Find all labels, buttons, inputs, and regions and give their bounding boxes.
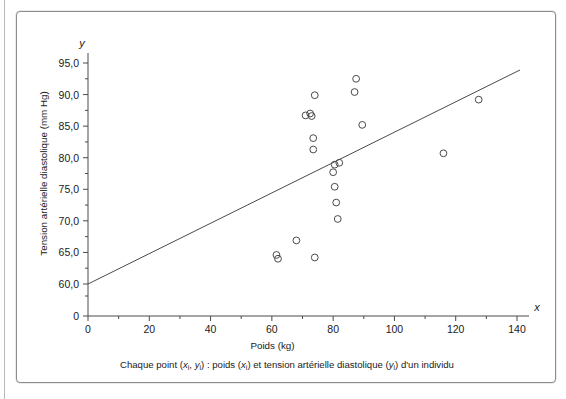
- x-tick-label: 80: [327, 323, 339, 335]
- data-point: [353, 75, 360, 82]
- caption-part: ) et tension artérielle diastolique (: [247, 359, 389, 370]
- data-point: [311, 254, 318, 261]
- data-point: [330, 169, 337, 176]
- y-tick-label: 95,0: [59, 57, 80, 69]
- x-tick-label: 140: [508, 323, 526, 335]
- regression-line: [88, 70, 520, 284]
- x-tick-label: 20: [143, 323, 155, 335]
- y-tick-label: 65,0: [59, 246, 80, 258]
- data-point: [351, 89, 358, 96]
- x-tick-label: 60: [266, 323, 278, 335]
- figure-caption: Chaque point (xi, yi) : poids (xi) et te…: [120, 359, 454, 371]
- y-tick-label: 75,0: [59, 183, 80, 195]
- caption-part: Chaque point (: [120, 359, 184, 370]
- data-point: [311, 92, 318, 99]
- y-tick-label: 60,0: [59, 278, 80, 290]
- data-point: [310, 146, 317, 153]
- x-tick-label: 100: [386, 323, 404, 335]
- y-tick-label: 80,0: [59, 152, 80, 164]
- x-tick-label: 40: [205, 323, 217, 335]
- figure-frame: yx60,065,070,075,080,085,090,095,0002040…: [16, 11, 556, 383]
- page-left-rule: [4, 0, 5, 399]
- y-axis-title: Tension artérielle diastolique (mm Hg): [38, 91, 49, 255]
- x-tick-label: 120: [447, 323, 465, 335]
- x-tick-label: 0: [85, 323, 91, 335]
- data-point: [440, 150, 447, 157]
- caption-part: ) d'un individu: [395, 359, 454, 370]
- data-point: [333, 199, 340, 206]
- y-tick-label: 70,0: [59, 215, 80, 227]
- data-point: [293, 237, 300, 244]
- x-axis-title: Poids (kg): [250, 340, 294, 351]
- scatter-plot: yx60,065,070,075,080,085,090,095,0002040…: [17, 12, 557, 384]
- y-origin-label: 0: [73, 310, 79, 322]
- caption-part: ) : poids (: [201, 359, 242, 370]
- data-point: [331, 183, 338, 190]
- x-axis-letter: x: [533, 301, 540, 313]
- y-tick-label: 90,0: [59, 89, 80, 101]
- y-tick-label: 85,0: [59, 120, 80, 132]
- data-point: [359, 121, 366, 128]
- data-point: [310, 135, 317, 142]
- data-point: [475, 96, 482, 103]
- data-point: [334, 216, 341, 223]
- y-axis-letter: y: [78, 37, 86, 49]
